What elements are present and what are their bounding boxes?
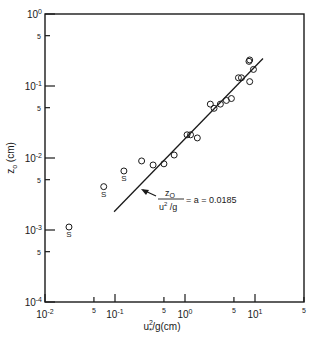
data-point xyxy=(139,158,145,164)
y-tick-label: 10-3 xyxy=(25,224,42,236)
data-point xyxy=(171,152,177,158)
data-point xyxy=(250,66,256,72)
fit-line xyxy=(114,59,263,212)
point-label: S xyxy=(66,230,71,239)
x-tick-label: 10-2 xyxy=(36,308,53,320)
y-tick-label: 5 xyxy=(37,105,41,112)
x-axis-label: u2*/g(cm) xyxy=(144,319,181,335)
svg-text:zo (cm): zo (cm) xyxy=(5,142,18,174)
x-axis-ticks: 10-2510-1510051015 xyxy=(36,294,306,320)
y-axis-ticks: 100510-1510-2510-3510-4 xyxy=(25,8,55,308)
data-point xyxy=(194,135,200,141)
point-label: S xyxy=(121,174,126,183)
data-point xyxy=(247,79,253,85)
svg-text:u2 /g: u2 /g xyxy=(159,201,177,212)
x-tick-label: 5 xyxy=(162,307,166,314)
chart: 10-2510-1510051015 100510-1510-2510-3510… xyxy=(0,0,316,337)
svg-text:u2*/g(cm): u2*/g(cm) xyxy=(144,319,181,335)
y-tick-label: 10-2 xyxy=(25,152,42,164)
x-tick-label: 101 xyxy=(247,308,262,320)
x-tick-label: 5 xyxy=(92,307,96,314)
y-tick-label: 5 xyxy=(37,249,41,256)
data-point xyxy=(161,161,167,167)
svg-text:zO: zO xyxy=(165,188,176,199)
y-axis-label: zo (cm) xyxy=(5,142,18,174)
data-point xyxy=(150,162,156,168)
y-tick-label: 10-1 xyxy=(25,80,42,92)
fit-annotation: zOu2 /g= a = 0.0185 xyxy=(141,188,237,212)
y-tick-label: 5 xyxy=(37,177,41,184)
x-tick-label: 5 xyxy=(232,307,236,314)
y-tick-label: 5 xyxy=(37,33,41,40)
x-tick-label: 5 xyxy=(302,307,306,314)
y-tick-label: 10-4 xyxy=(25,296,42,308)
point-label: S xyxy=(101,190,106,199)
x-tick-label: 100 xyxy=(177,308,192,320)
svg-text:= a = 0.0185: = a = 0.0185 xyxy=(186,195,237,205)
y-tick-label: 100 xyxy=(27,8,42,20)
x-tick-label: 10-1 xyxy=(106,308,123,320)
